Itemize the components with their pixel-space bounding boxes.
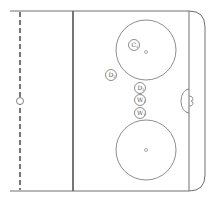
top-faceoff-dot — [145, 51, 148, 54]
rink-boundary — [10, 11, 205, 191]
player-w1-top: W1 — [135, 95, 146, 106]
player-c1: C1 — [129, 40, 140, 51]
bottom-faceoff-dot — [145, 149, 148, 152]
center-faceoff-dot — [17, 98, 24, 105]
player-d1: D1 — [135, 83, 146, 94]
bottom-faceoff-circle — [116, 120, 176, 180]
player-w1-bottom: W1 — [135, 108, 146, 119]
player-d2: D2 — [106, 70, 117, 81]
hockey-rink-diagram: C1 D2 D1 W1 W1 — [0, 0, 219, 201]
top-faceoff-circle — [116, 20, 176, 80]
goal-net — [189, 96, 193, 106]
goal-crease — [181, 89, 189, 113]
